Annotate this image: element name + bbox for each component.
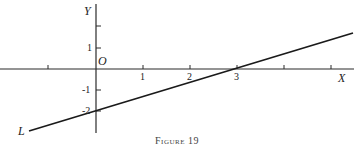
- caption-number: 19: [188, 135, 199, 146]
- figure-caption: Figure 19: [0, 135, 354, 146]
- y-tick-label-neg1: -1: [82, 84, 90, 95]
- line-l: [29, 33, 353, 131]
- x-tick-label-1: 1: [140, 71, 145, 82]
- y-tick-label-neg2: -2: [82, 105, 90, 116]
- caption-word: Figure: [155, 135, 185, 146]
- x-tick-label-2: 2: [187, 71, 192, 82]
- y-tick-label-1: 1: [87, 42, 92, 53]
- x-tick-label-3: 3: [234, 71, 239, 82]
- y-axis-label: Y: [84, 4, 92, 18]
- x-axis-label: X: [337, 71, 346, 85]
- origin-label: O: [98, 54, 107, 68]
- figure-graph: Y X O L 1 2 3 1 -1 -2: [0, 0, 354, 154]
